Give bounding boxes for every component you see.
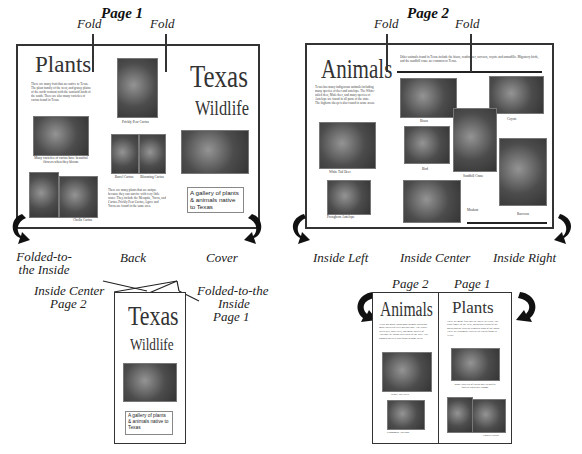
- fold-arrow-page2-right-icon: [548, 210, 578, 255]
- open-plants-title: Plants: [452, 298, 494, 318]
- open-brochure-left: Animals Texas has many indigenous animal…: [372, 292, 440, 444]
- page1-sheet: Plants There are many fruit that are nat…: [16, 44, 260, 229]
- page1-fold-label-1: Fold: [77, 16, 102, 32]
- barrel-cactus-caption: Barrel Cactus: [113, 175, 135, 179]
- folded-label-page1: Page 1: [213, 309, 249, 325]
- page2-label-inside-right: Inside Right: [493, 250, 556, 266]
- coyote-caption: Coyote: [507, 117, 517, 121]
- cholla-cactus-caption: Cholla Cactus: [73, 218, 92, 222]
- pronghorn-antelope-photo: [327, 180, 371, 215]
- bison-caption: Bison: [420, 119, 428, 123]
- plants-title: Plants: [35, 52, 91, 78]
- open-deer-photo: [382, 352, 432, 392]
- page2-sheet: Animals Texas has many indigenous animal…: [305, 43, 554, 229]
- open-flower-caption: Many varieties of cactus have beautiful …: [453, 383, 497, 389]
- fold-arrow-right-icon: [236, 210, 266, 255]
- page1-fold-line-2: [165, 34, 167, 72]
- coyote-photo: [489, 76, 544, 114]
- animals-body-text: Texas has many indigenous animals includ…: [315, 85, 375, 117]
- raccoon-caption: Raccoon: [517, 212, 529, 216]
- open-cholla-caption: Cholla Cactus: [483, 434, 499, 437]
- open-cholla-photo: [472, 399, 506, 433]
- white-tail-deer-photo: [319, 122, 376, 169]
- barrel-cactus-photo: [111, 134, 139, 174]
- open-flower-photo: [447, 397, 473, 433]
- sandhill-crane-caption: Sandhill Crane: [463, 174, 483, 178]
- open-antelope-photo: [387, 400, 425, 430]
- muskrat-caption: Muskrat: [467, 208, 478, 212]
- page1-heading: Page 1: [101, 5, 143, 22]
- page2-fold-line-1: [386, 34, 388, 72]
- open-deer-caption: White Tail Deer: [391, 393, 409, 396]
- open-animals-body: Texas has many indigenous animals includ…: [379, 323, 433, 349]
- open-plants-body: There are many fruit that are native to …: [447, 320, 503, 342]
- page2-heading: Page 2: [407, 5, 449, 22]
- page1-label-folded-to-inside: Folded-to-the Inside: [9, 250, 79, 276]
- folded-label-page2: Page 2: [50, 296, 86, 312]
- folded-tagline-box: A gallery of plants & animals native to …: [125, 411, 173, 435]
- page2-fold-label-1: Fold: [374, 16, 399, 32]
- cover-title-wildlife: Wildlife: [195, 96, 249, 121]
- open-label-page1: Page 1: [454, 276, 490, 292]
- folded-title-texas: Texas: [128, 300, 179, 332]
- prickly-pear-caption: Prickly Pear Cactus: [122, 120, 149, 124]
- open-arrow-right-icon: [512, 290, 542, 330]
- folded-cover-photo: [123, 363, 177, 402]
- open-animals-title: Animals: [380, 298, 433, 321]
- page1-fold-line-1: [92, 34, 94, 72]
- bird-caption: Bird: [422, 167, 428, 171]
- animals-title: Animals: [321, 54, 392, 85]
- prickly-pear-photo: [33, 116, 89, 156]
- cactus-flower-caption: Many varieties of cactus have beautiful …: [31, 157, 91, 165]
- muskrat-photo: [403, 180, 461, 223]
- center-body-text: There are many plants that are unique be…: [108, 188, 166, 218]
- prickly-pear-cactus-photo: [117, 58, 158, 118]
- open-antelope-caption: Pronghorn Antelope: [387, 431, 410, 434]
- plants-body-text: There are many fruit that are native to …: [31, 82, 91, 112]
- page1-label-cover: Cover: [206, 250, 238, 266]
- page1-label-back: Back: [120, 250, 146, 266]
- fold-arrow-page2-left-icon: [286, 210, 316, 255]
- open-prickly-pear-photo: [451, 348, 500, 381]
- cover-lizard-photo: [181, 130, 249, 174]
- open-label-page2: Page 2: [392, 276, 428, 292]
- pronghorn-antelope-caption: Pronghorn Antelope: [327, 215, 354, 219]
- blooming-cactus-photo: [139, 134, 166, 174]
- cover-title-texas: Texas: [190, 58, 248, 95]
- folded-title-wildlife: Wildlife: [130, 335, 174, 355]
- open-brochure-right: Plants There are many fruit that are nat…: [438, 292, 512, 444]
- page2-fold-label-2: Fold: [455, 16, 480, 32]
- blooming-cactus-caption: Blooming Cactus: [140, 175, 164, 179]
- page2-label-inside-left: Inside Left: [313, 250, 368, 266]
- bison-photo: [400, 78, 457, 118]
- cholla-cactus-photo: [59, 176, 98, 218]
- page2-label-inside-center: Inside Center: [400, 250, 470, 266]
- page2-fold-line-2: [470, 34, 472, 72]
- bird-photo: [404, 126, 450, 164]
- page1-fold-label-2: Fold: [150, 16, 175, 32]
- folded-brochure: Texas Wildlife A gallery of plants & ani…: [114, 292, 186, 444]
- white-tail-deer-caption: White Tail Deer: [329, 170, 351, 174]
- raccoon-photo: [499, 138, 547, 206]
- bottom-divider: [467, 222, 547, 224]
- sandhill-crane-photo: [453, 108, 497, 172]
